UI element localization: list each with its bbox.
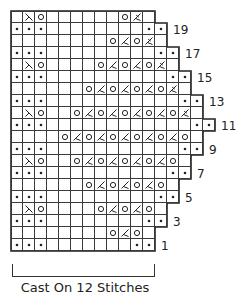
stitch-cell (71, 59, 83, 71)
stitch-cell (131, 167, 143, 179)
purl-dot-icon (24, 168, 34, 178)
yarn-over-icon (108, 84, 118, 94)
stitch-cell (95, 107, 107, 119)
stitch-cell (155, 191, 167, 203)
purl-dot-icon (12, 24, 22, 34)
yarn-over-icon (156, 132, 166, 142)
stitch-cell (143, 11, 155, 23)
yarn-over-icon (36, 108, 46, 118)
stitch-cell (119, 239, 131, 251)
cast-on-bracket (12, 264, 155, 277)
stitch-cell (23, 35, 35, 47)
stitch-cell (59, 131, 71, 143)
purl-dot-icon (144, 24, 154, 34)
stitch-cell (107, 239, 119, 251)
yarn-over-icon (132, 228, 142, 238)
stitch-cell (167, 47, 179, 59)
stitch-cell (155, 203, 167, 215)
stitch-cell (143, 23, 155, 35)
purl-dot-icon (24, 240, 34, 250)
stitch-cell (23, 203, 35, 215)
purl-dot-icon (24, 216, 34, 226)
stitch-cell (119, 107, 131, 119)
stitch-cell (83, 179, 95, 191)
stitch-cell (131, 107, 143, 119)
stitch-cell (95, 155, 107, 167)
yarn-over-icon (36, 204, 46, 214)
stitch-cell (23, 11, 35, 23)
stitch-cell (23, 239, 35, 251)
stitch-cell (23, 119, 35, 131)
stitch-cell (23, 179, 35, 191)
stitch-cell (71, 215, 83, 227)
purl-dot-icon (168, 168, 178, 178)
stitch-cell (59, 11, 71, 23)
yarn-over-icon (132, 36, 142, 46)
stitch-cell (83, 131, 95, 143)
stitch-cell (23, 59, 35, 71)
stitch-cell (59, 35, 71, 47)
stitch-cell (107, 215, 119, 227)
stitch-cell (83, 203, 95, 215)
purl-dot-icon (36, 168, 46, 178)
stitch-cell (35, 11, 47, 23)
ssk-icon (24, 108, 34, 118)
stitch-cell (71, 179, 83, 191)
k2tog-icon (144, 180, 154, 190)
stitch-cell (155, 119, 167, 131)
stitch-cell (95, 215, 107, 227)
stitch-cell (35, 203, 47, 215)
yarn-over-icon (132, 84, 142, 94)
k2tog-icon (108, 156, 118, 166)
purl-dot-icon (36, 240, 46, 250)
stitch-cell (35, 95, 47, 107)
stitch-cell (47, 239, 59, 251)
stitch-cell (83, 71, 95, 83)
stitch-cell (23, 131, 35, 143)
k2tog-icon (96, 132, 106, 142)
row-label-5: 5 (185, 192, 193, 204)
yarn-over-icon (156, 84, 166, 94)
purl-dot-icon (156, 216, 166, 226)
stitch-cell (47, 155, 59, 167)
stitch-cell (119, 131, 131, 143)
yarn-over-icon (120, 60, 130, 70)
stitch-cell (179, 95, 191, 107)
stitch-cell (83, 47, 95, 59)
stitch-cell (47, 59, 59, 71)
purl-dot-icon (168, 72, 178, 82)
purl-dot-icon (156, 24, 166, 34)
purl-dot-icon (36, 24, 46, 34)
stitch-cell (131, 83, 143, 95)
stitch-cell (71, 155, 83, 167)
stitch-cell (131, 179, 143, 191)
purl-dot-icon (132, 240, 142, 250)
stitch-cell (143, 71, 155, 83)
yarn-over-icon (96, 156, 106, 166)
stitch-cell (59, 179, 71, 191)
purl-dot-icon (24, 120, 34, 130)
stitch-cell (167, 143, 179, 155)
stitch-cell (71, 107, 83, 119)
stitch-cell (191, 131, 203, 143)
stitch-cell (119, 215, 131, 227)
stitch-cell (95, 167, 107, 179)
stitch-cell (47, 227, 59, 239)
stitch-cell (131, 71, 143, 83)
stitch-cell (71, 35, 83, 47)
stitch-cell (107, 119, 119, 131)
stitch-cell (47, 107, 59, 119)
yarn-over-icon (144, 156, 154, 166)
stitch-cell (83, 143, 95, 155)
stitch-cell (11, 119, 23, 131)
stitch-cell (95, 83, 107, 95)
purl-dot-icon (36, 120, 46, 130)
purl-dot-icon (192, 144, 202, 154)
stitch-cell (119, 23, 131, 35)
stitch-cell (131, 95, 143, 107)
stitch-cell (23, 167, 35, 179)
row-label-13: 13 (209, 96, 224, 108)
stitch-cell (11, 107, 23, 119)
stitch-cell (155, 83, 167, 95)
stitch-cell (83, 59, 95, 71)
